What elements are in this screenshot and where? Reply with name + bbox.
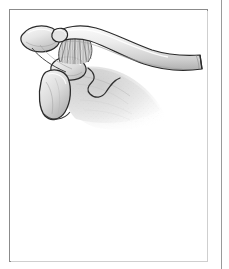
glenoid-humeral-head [39,70,70,119]
figure-frame [9,9,208,262]
page-gutter-rule [221,0,222,269]
acromioclavicular-joint [52,28,68,42]
shoulder-anatomy-illustration [10,10,209,263]
page-canvas: shoulder girdle [0,0,229,269]
